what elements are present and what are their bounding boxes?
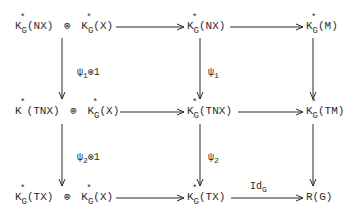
node-kg-nx-tensor-kg-x: K*G(NX) ⊗ K*G(X) (15, 21, 113, 32)
argument: (X) (93, 191, 113, 203)
node-r-g: R(G) (306, 192, 332, 203)
identity-symbol: Id (250, 181, 262, 192)
subscript: 1 (214, 71, 219, 80)
argument: (M) (318, 20, 338, 32)
argument: (TM) (318, 105, 344, 117)
tensor-one: ⊗1 (88, 152, 100, 163)
argument: (TX) (199, 191, 225, 203)
argument: (NX) (27, 20, 53, 32)
label-psi1-tensor-1: ψ1⊗1 (77, 68, 100, 78)
argument: (X) (99, 105, 119, 117)
subscript: 2 (83, 156, 88, 165)
node-kg-tx-tensor-kg-x: K*G(TX) ⊗ K*G(X) (15, 192, 113, 203)
subscript: G (194, 111, 199, 121)
node-kg-tnx: K*G(TNX) (187, 106, 232, 117)
subscript: G (313, 111, 318, 121)
tensor-symbol: ⊗ (64, 20, 71, 32)
node-kg-nx: K*G(NX) (187, 21, 225, 32)
superscript: * (20, 185, 25, 194)
superscript: * (192, 185, 197, 194)
argument: (NX) (199, 20, 225, 32)
superscript: * (92, 99, 97, 108)
superscript: * (192, 14, 197, 23)
superscript: * (311, 14, 316, 23)
subscript: 2 (214, 156, 219, 165)
subscript: G (88, 26, 93, 36)
tensor-symbol: ⊗ (70, 105, 77, 117)
subscript: G (88, 197, 93, 207)
label-psi2-tensor-1: ψ2⊗1 (77, 153, 100, 163)
superscript: * (86, 14, 91, 23)
node-k-tnx-tensor-kg-x: K*(TNX) ⊗ K*G(X) (15, 106, 119, 117)
argument: (X) (93, 20, 113, 32)
subscript: G (22, 26, 27, 36)
superscript: * (20, 99, 25, 108)
label-id-g: IdG (250, 182, 267, 192)
argument: (TX) (27, 191, 53, 203)
subscript: 1 (83, 71, 88, 80)
subscript: G (94, 111, 99, 121)
tensor-symbol: ⊗ (64, 191, 71, 203)
superscript: * (86, 185, 91, 194)
node-kg-tx: K*G(TX) (187, 192, 225, 203)
superscript: * (311, 99, 316, 108)
subscript: G (194, 197, 199, 207)
argument: (TNX) (199, 105, 232, 117)
tensor-one: ⊗1 (88, 67, 100, 78)
argument: (TNX) (27, 105, 60, 117)
subscript: G (22, 197, 27, 207)
superscript: * (20, 14, 25, 23)
subscript: G (262, 185, 267, 194)
representation-ring: R(G) (306, 191, 332, 203)
label-psi2: ψ2 (208, 153, 219, 163)
subscript: G (313, 26, 318, 36)
label-psi1: ψ1 (208, 68, 219, 78)
subscript: G (194, 26, 199, 36)
superscript: * (192, 99, 197, 108)
node-kg-tm: K*G(TM) (306, 106, 344, 117)
node-kg-m: K*G(M) (306, 21, 338, 32)
